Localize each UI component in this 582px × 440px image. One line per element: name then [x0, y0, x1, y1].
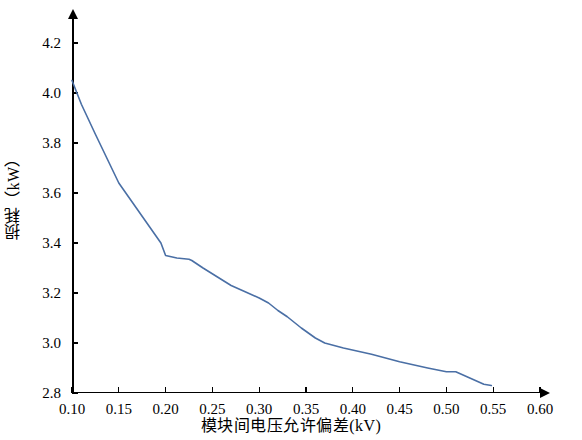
x-axis-title: 模块间电压允许偏差(kV)	[0, 412, 582, 436]
loss-vs-voltage-deviation-chart: 0.100.150.200.250.300.350.400.450.500.55…	[0, 0, 582, 440]
y-tick-label: 3.4	[42, 236, 61, 251]
y-tick-label: 4.2	[42, 36, 61, 51]
y-tick-label: 2.8	[42, 386, 61, 401]
y-tick-label: 3.6	[42, 186, 61, 201]
y-axis-title: 损耗（kW）	[2, 150, 26, 240]
x-axis-arrow-icon	[540, 388, 550, 398]
y-tick-label: 4.0	[42, 86, 61, 101]
plot-area: 0.100.150.200.250.300.350.400.450.500.55…	[72, 18, 540, 393]
y-tick-label: 3.2	[42, 286, 61, 301]
y-tick-label: 3.8	[42, 136, 61, 151]
y-tick-label: 3.0	[42, 336, 61, 351]
series-line	[72, 18, 540, 393]
